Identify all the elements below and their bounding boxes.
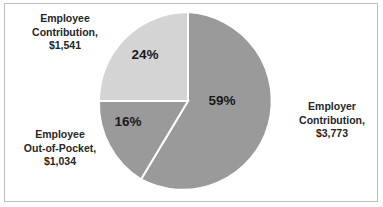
callout-line-3: $1,034 (6, 155, 114, 169)
slice-percent-employee-out-of-pocket: 16% (108, 114, 148, 129)
pie-chart-screenshot: 59% 24% 16% Employee Contribution, $1,54… (0, 0, 383, 207)
callout-label-employee-contribution: Employee Contribution, $1,541 (13, 12, 117, 53)
callout-line-1: Employer (284, 100, 380, 114)
slice-percent-employee-contribution: 24% (123, 47, 167, 62)
callout-line-1: Employee (6, 128, 114, 142)
callout-label-employee-out-of-pocket: Employee Out-of-Pocket, $1,034 (6, 128, 114, 169)
callout-line-2: Contribution, (13, 26, 117, 40)
callout-line-3: $3,773 (284, 127, 380, 141)
chart-plot-area: 59% 24% 16% Employee Contribution, $1,54… (0, 0, 383, 207)
callout-line-1: Employee (13, 12, 117, 26)
callout-line-2: Out-of-Pocket, (6, 142, 114, 156)
callout-line-3: $1,541 (13, 39, 117, 53)
callout-label-employer-contribution: Employer Contribution, $3,773 (284, 100, 380, 141)
slice-percent-employer-contribution: 59% (200, 93, 244, 108)
callout-line-2: Contribution, (284, 114, 380, 128)
